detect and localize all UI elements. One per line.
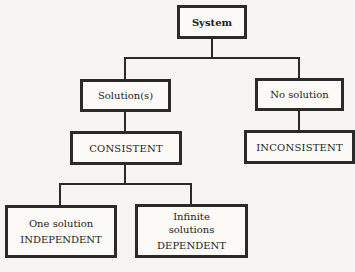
node-solutions: Solution(s)	[80, 79, 171, 112]
connector-solutions-to-consistent	[124, 111, 126, 132]
node-system-label: System	[192, 16, 232, 29]
node-infinite-line3: DEPENDENT	[157, 239, 226, 252]
connector-system-branch	[124, 57, 300, 59]
node-infinite-line1: Infinite	[173, 210, 210, 223]
connector-to-no-solution	[298, 57, 300, 79]
connector-consistent-down	[124, 164, 126, 184]
connector-to-one-solution	[59, 183, 61, 206]
node-inconsistent: INCONSISTENT	[244, 130, 355, 164]
node-solutions-label: Solution(s)	[98, 89, 153, 102]
connector-system-down	[211, 38, 213, 59]
node-inconsistent-label: INCONSISTENT	[256, 141, 343, 154]
node-infinite-solutions: Infinite solutions DEPENDENT	[135, 204, 248, 258]
connector-to-infinite	[190, 183, 192, 205]
node-infinite-line2: solutions	[169, 223, 215, 236]
node-system: System	[177, 5, 247, 39]
node-consistent-label: CONSISTENT	[89, 142, 163, 155]
node-one-solution-line2: INDEPENDENT	[20, 233, 102, 246]
connector-no-solution-to-inconsistent	[298, 110, 300, 131]
node-consistent: CONSISTENT	[70, 131, 182, 165]
node-no-solution: No solution	[255, 78, 344, 111]
node-one-solution-line1: One solution	[29, 217, 93, 230]
connector-to-solutions	[124, 57, 126, 80]
connector-consistent-branch	[59, 183, 192, 185]
node-no-solution-label: No solution	[270, 88, 328, 101]
node-one-solution: One solution INDEPENDENT	[5, 205, 117, 258]
